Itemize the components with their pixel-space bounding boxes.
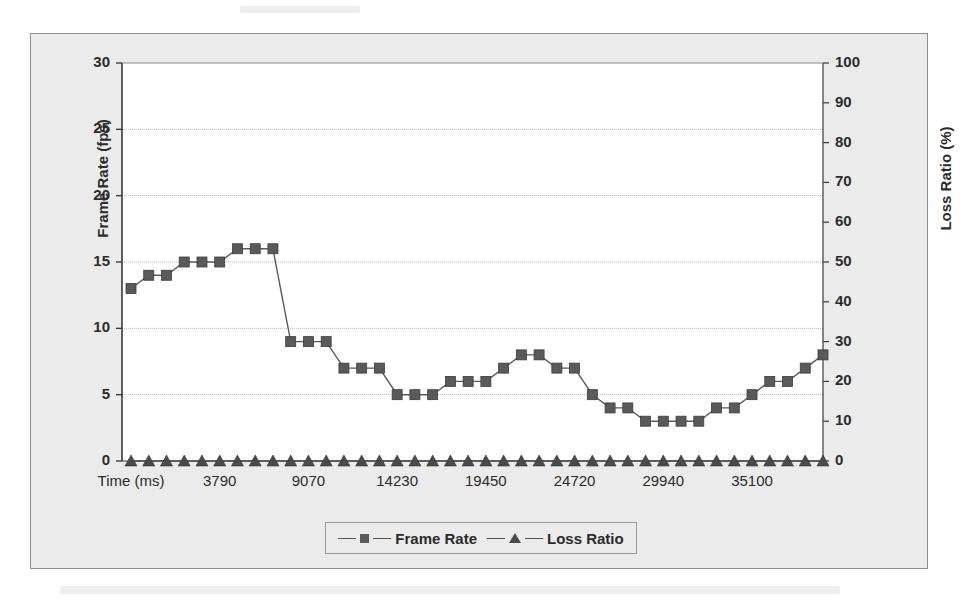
y-axis-left-ticks <box>116 63 122 461</box>
y-axis-right-tick-label: 30 <box>835 332 881 349</box>
y-axis-right-tick-label: 80 <box>835 133 881 150</box>
chart-legend: Frame Rate Loss Ratio <box>325 522 637 554</box>
triangle-marker-icon <box>509 533 521 543</box>
scan-artifact <box>60 586 840 594</box>
y-axis-right-ticks <box>823 63 829 461</box>
square-marker-icon <box>360 534 369 543</box>
y-axis-right-title: Loss Ratio (%) <box>937 69 954 289</box>
y-axis-left-tick-label: 0 <box>70 451 110 468</box>
legend-label-loss-ratio: Loss Ratio <box>547 530 624 547</box>
legend-line-icon <box>373 538 391 539</box>
legend-item-frame-rate: Frame Rate <box>338 530 477 547</box>
y-axis-right-tick-label: 20 <box>835 371 881 388</box>
y-axis-right-tick-label: 40 <box>835 292 881 309</box>
y-axis-right-tick-label: 70 <box>835 172 881 189</box>
y-axis-right-tick-label: 100 <box>835 53 881 70</box>
legend-label-frame-rate: Frame Rate <box>395 530 477 547</box>
chart-plot-area <box>0 0 962 602</box>
legend-line-icon <box>487 538 505 539</box>
y-axis-left-tick-label: 30 <box>70 53 110 70</box>
scan-artifact <box>240 6 360 13</box>
legend-item-loss-ratio: Loss Ratio <box>487 530 624 547</box>
x-axis-tick-label: 35100 <box>692 472 812 489</box>
legend-line-icon <box>338 538 356 539</box>
y-axis-right-tick-label: 0 <box>835 451 881 468</box>
y-axis-left-title: Frame Rate (fps) <box>94 69 111 289</box>
y-axis-left-tick-label: 10 <box>70 318 110 335</box>
y-axis-right-tick-label: 10 <box>835 411 881 428</box>
y-axis-right-tick-label: 50 <box>835 252 881 269</box>
y-axis-right-tick-label: 60 <box>835 212 881 229</box>
legend-line-icon <box>525 538 543 539</box>
y-axis-left-tick-label: 5 <box>70 385 110 402</box>
y-axis-right-tick-label: 90 <box>835 93 881 110</box>
